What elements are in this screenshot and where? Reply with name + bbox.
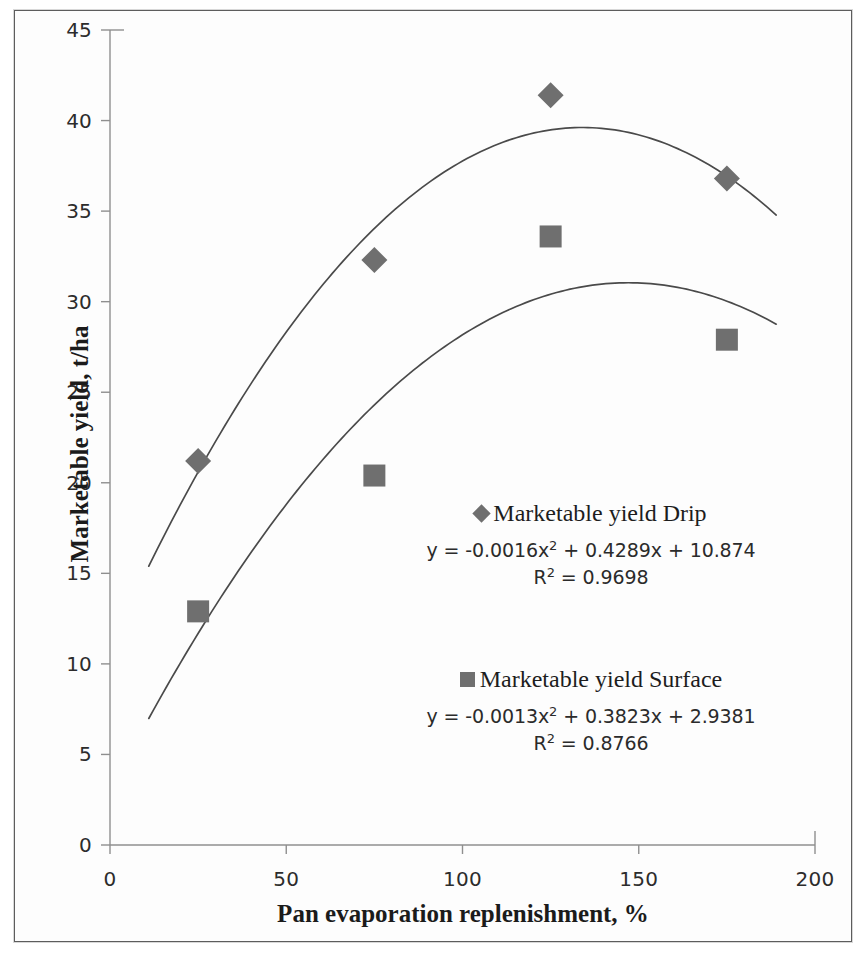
r-squared-surface: R2 = 0.8766 bbox=[406, 731, 776, 754]
y-tick-label: 45 bbox=[36, 18, 92, 42]
square-marker-icon bbox=[460, 672, 475, 687]
x-tick-label: 100 bbox=[443, 867, 482, 891]
chart-plot-area bbox=[0, 0, 867, 966]
r-squared-drip: R2 = 0.9698 bbox=[406, 565, 776, 588]
y-tick-label: 0 bbox=[36, 833, 92, 857]
trendline-equation-drip: y = -0.0016x2 + 0.4289x + 10.874 bbox=[406, 538, 776, 561]
x-tick-label: 150 bbox=[619, 867, 658, 891]
legend-row-surface: Marketable yield Surface bbox=[406, 666, 776, 693]
equation-exponent-drip: 2 bbox=[549, 538, 557, 553]
x-tick-label: 0 bbox=[104, 867, 117, 891]
trendline-equation-surface: y = -0.0013x2 + 0.3823x + 2.9381 bbox=[406, 704, 776, 727]
r2-suffix-surface: = 0.8766 bbox=[555, 733, 649, 755]
r2-prefix-surface: R bbox=[534, 733, 547, 755]
y-axis-title: Marketable yield, t/ha bbox=[66, 94, 94, 794]
r2-exponent-drip: 2 bbox=[547, 565, 555, 580]
legend-entry-drip: Marketable yield Drip y = -0.0016x2 + 0.… bbox=[406, 500, 776, 589]
equation-exponent-surface: 2 bbox=[549, 704, 557, 719]
r2-exponent-surface: 2 bbox=[547, 731, 555, 746]
x-axis-title: Pan evaporation replenishment, % bbox=[110, 900, 816, 928]
legend-entry-surface: Marketable yield Surface y = -0.0013x2 +… bbox=[406, 666, 776, 755]
equation-prefix-surface: y = -0.0013x bbox=[426, 705, 549, 727]
diamond-marker-icon bbox=[473, 504, 491, 522]
equation-suffix-drip: + 0.4289x + 10.874 bbox=[557, 539, 755, 561]
trendline-group bbox=[149, 127, 776, 718]
legend-label-surface: Marketable yield Surface bbox=[480, 666, 723, 693]
r2-prefix-drip: R bbox=[534, 567, 547, 589]
legend-label-drip: Marketable yield Drip bbox=[493, 500, 706, 527]
equation-prefix-drip: y = -0.0016x bbox=[426, 539, 549, 561]
legend-row-drip: Marketable yield Drip bbox=[406, 500, 776, 527]
x-tick-label: 200 bbox=[796, 867, 835, 891]
chart-svg bbox=[0, 0, 867, 966]
equation-suffix-surface: + 0.3823x + 2.9381 bbox=[557, 705, 755, 727]
r2-suffix-drip: = 0.9698 bbox=[555, 567, 649, 589]
x-tick-label: 50 bbox=[273, 867, 299, 891]
